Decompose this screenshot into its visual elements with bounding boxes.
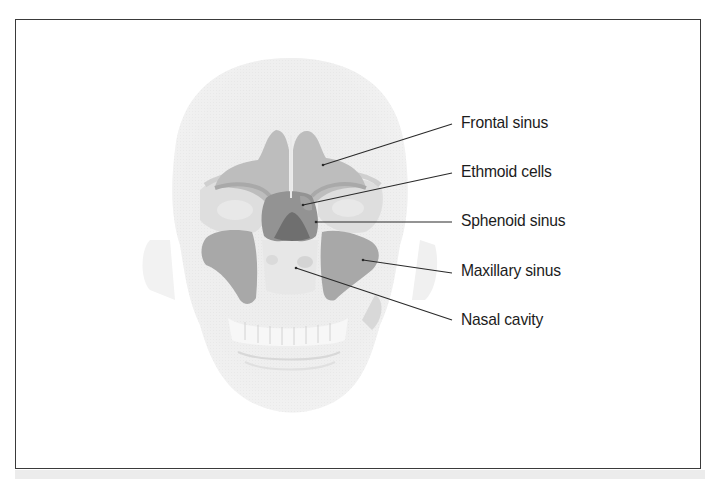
label-maxillary-sinus: Maxillary sinus (461, 261, 561, 281)
label-ethmoid-cells: Ethmoid cells (461, 162, 552, 182)
skull-illustration (0, 0, 714, 479)
label-frontal-sinus: Frontal sinus (461, 113, 548, 133)
label-nasal-cavity: Nasal cavity (461, 310, 543, 330)
label-sphenoid-sinus: Sphenoid sinus (461, 211, 565, 231)
nasal-cavity-shape (262, 240, 318, 295)
